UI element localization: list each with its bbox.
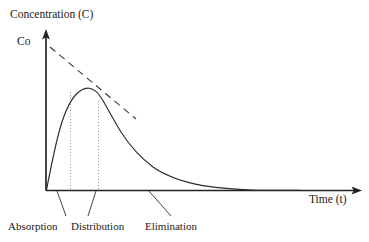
phase-label-absorption: Absorption [8, 221, 58, 232]
y-axis-origin-label: Co [17, 36, 30, 48]
plot-canvas [0, 0, 369, 242]
phase-label-distribution: Distribution [71, 221, 124, 232]
y-axis [42, 29, 50, 191]
absorption-leader-line [57, 191, 66, 216]
distribution-leader-line [88, 191, 96, 216]
pharmacokinetic-curve-figure: Concentration (C) Co Time (t) Absorption… [0, 0, 369, 242]
phase-label-elimination: Elimination [145, 221, 197, 232]
elimination-leader-line [148, 190, 171, 216]
elimination-extrapolation-dashed-line [50, 47, 136, 119]
x-axis-title: Time (t) [309, 194, 347, 206]
concentration-time-curve [47, 88, 301, 190]
y-axis-title: Concentration (C) [10, 9, 93, 21]
